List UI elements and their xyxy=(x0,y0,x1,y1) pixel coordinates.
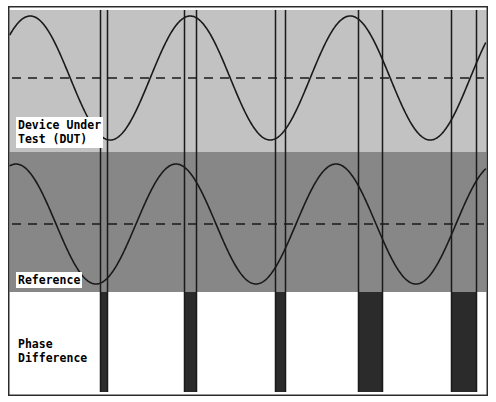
figure-canvas: Device Under Test (DUT) Reference Phase … xyxy=(0,0,496,402)
panel-band-1 xyxy=(10,152,487,292)
phase-bar-3 xyxy=(358,292,382,392)
panel-bands xyxy=(10,10,487,392)
phase-bar-4 xyxy=(451,292,476,392)
phase-bar-2 xyxy=(275,292,285,392)
label-reference: Reference xyxy=(16,272,82,288)
label-phase-difference: Phase Difference xyxy=(16,336,89,367)
label-device-under-test: Device Under Test (DUT) xyxy=(16,117,103,148)
phase-bar-1 xyxy=(184,292,196,392)
